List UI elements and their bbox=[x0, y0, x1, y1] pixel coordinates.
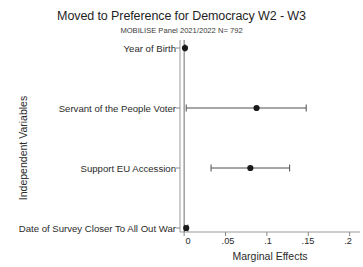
estimate-marker bbox=[182, 45, 188, 51]
estimate-marker bbox=[183, 225, 189, 231]
data-point-group bbox=[182, 45, 188, 52]
plot-area bbox=[0, 0, 363, 267]
data-point-group bbox=[211, 165, 290, 172]
estimate-marker bbox=[253, 105, 259, 111]
data-point-group bbox=[186, 105, 306, 112]
estimate-marker bbox=[247, 165, 253, 171]
marginal-effects-chart: Moved to Preference for Democracy W2 - W… bbox=[0, 0, 363, 267]
